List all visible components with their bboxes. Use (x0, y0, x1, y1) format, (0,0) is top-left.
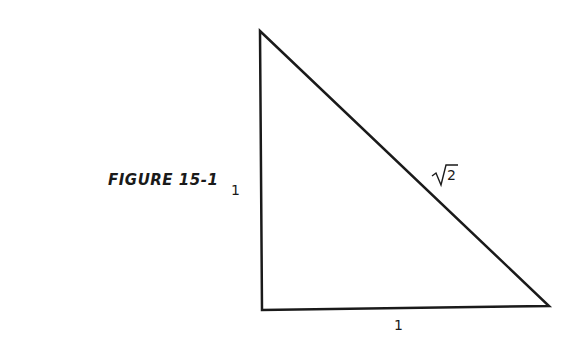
left-side-label: 1 (231, 182, 240, 198)
bottom-side-label: 1 (394, 317, 403, 333)
right-triangle (0, 0, 583, 344)
hypotenuse-label: 2 (447, 167, 456, 183)
